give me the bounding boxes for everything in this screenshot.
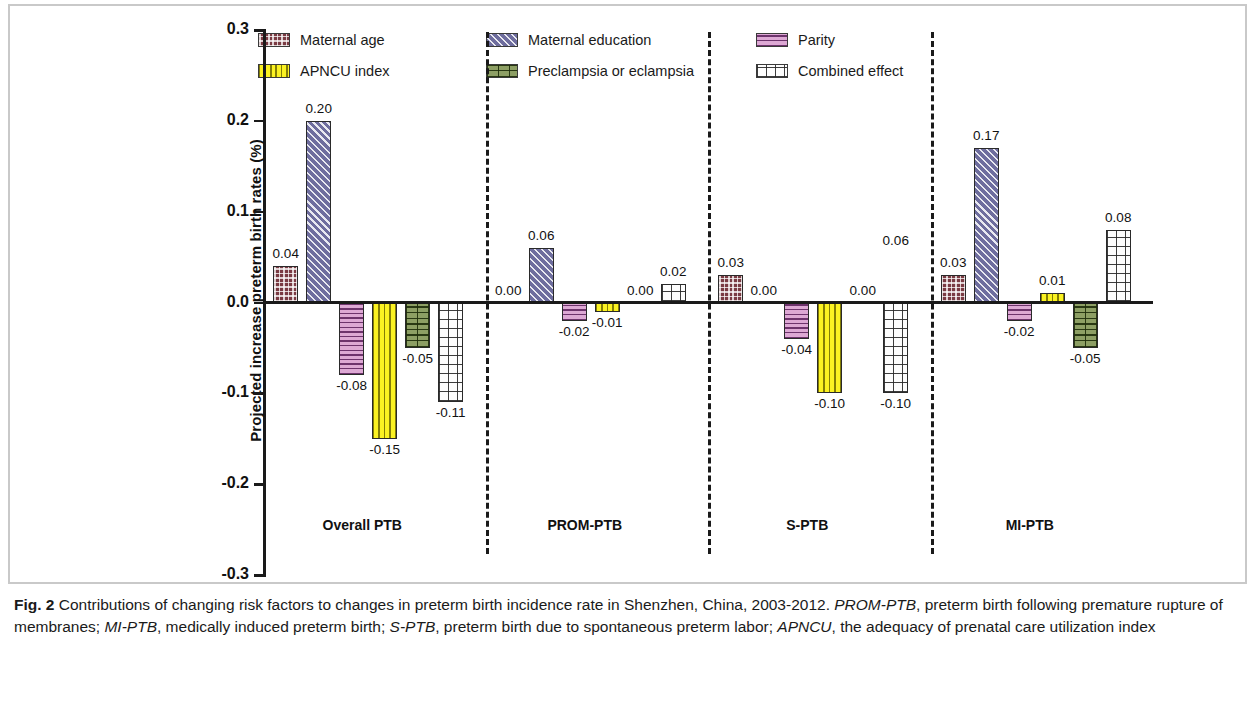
caption-segment: PROM-PTB	[834, 596, 916, 613]
y-tick	[254, 574, 266, 577]
bar	[372, 303, 397, 439]
bar-value-label: 0.20	[306, 101, 332, 116]
caption-segment: , preterm birth due to spontaneous prete…	[435, 618, 777, 635]
bar-value-label: -0.02	[1004, 324, 1035, 339]
bar	[974, 148, 999, 302]
bar-value-label: 0.03	[718, 255, 744, 270]
bar	[817, 303, 842, 394]
caption-segment: , medically induced preterm birth;	[157, 618, 390, 635]
y-axis-title: Projected increase preterm birth rates (…	[247, 81, 264, 501]
group-label-prom-ptb: PROM-PTB	[547, 517, 622, 533]
y-tick	[254, 29, 266, 32]
bar-value-label: 0.17	[973, 128, 999, 143]
bar	[883, 303, 908, 394]
bar-value-label: 0.00	[850, 283, 876, 298]
bar-value-label: -0.01	[592, 315, 623, 330]
bar-value-label: -0.10	[880, 396, 911, 411]
bar-value-label: -0.08	[336, 378, 367, 393]
bar-value-label: 0.00	[627, 283, 653, 298]
bar-value-label: -0.05	[1070, 351, 1101, 366]
bar	[405, 303, 430, 348]
y-tick-label: 0.2	[227, 111, 249, 129]
bar-value-label: 0.03	[940, 255, 966, 270]
y-tick	[254, 392, 266, 395]
bar	[529, 248, 554, 303]
bar	[941, 275, 966, 302]
y-tick-label: -0.3	[221, 565, 249, 583]
figure-page: Maternal ageAPNCU indexMaternal educatio…	[0, 0, 1255, 702]
group-divider	[486, 32, 489, 554]
group-label-s-ptb: S-PTB	[786, 517, 828, 533]
bar-value-label: 0.08	[1105, 210, 1131, 225]
bar	[1106, 230, 1131, 303]
y-tick-label: -0.1	[221, 383, 249, 401]
caption-segment: APNCU	[777, 618, 831, 635]
bar	[339, 303, 364, 376]
bar	[562, 303, 587, 321]
figure-panel: Maternal ageAPNCU indexMaternal educatio…	[8, 4, 1247, 584]
bar-value-label: -0.11	[436, 405, 466, 420]
y-tick	[254, 483, 266, 486]
bar	[273, 266, 298, 302]
bar-value-label: -0.05	[402, 351, 433, 366]
bar	[718, 275, 743, 302]
y-tick-label: 0.0	[227, 293, 249, 311]
bar-value-label: 0.00	[495, 283, 521, 298]
y-tick-label: 0.3	[227, 20, 249, 38]
group-divider	[708, 32, 711, 554]
group-divider	[931, 32, 934, 554]
group-label-mi-ptb: MI-PTB	[1006, 517, 1054, 533]
caption-segment: Fig. 2	[14, 596, 59, 613]
bar	[1073, 303, 1098, 348]
y-tick-label: 0.1	[227, 202, 249, 220]
bar-value-label: 0.02	[660, 264, 686, 279]
y-tick-label: -0.2	[221, 474, 249, 492]
bar-value-label: -0.02	[559, 324, 590, 339]
bar	[438, 303, 463, 403]
figure-caption: Fig. 2 Contributions of changing risk fa…	[14, 594, 1239, 638]
bar-value-label: 0.04	[273, 246, 299, 261]
bar	[784, 303, 809, 339]
group-label-overall-ptb: Overall PTB	[323, 517, 402, 533]
bar	[1007, 303, 1032, 321]
chart-annotation: 0.06	[883, 233, 909, 248]
caption-segment: , the adequacy of prenatal care utilizat…	[832, 618, 1156, 635]
zero-baseline	[263, 301, 1153, 304]
bar	[306, 121, 331, 303]
plot-area: Projected increase preterm birth rates (…	[263, 30, 1153, 575]
bar	[661, 284, 686, 302]
y-tick	[254, 120, 266, 123]
bar-value-label: -0.15	[369, 442, 400, 457]
y-tick	[254, 211, 266, 214]
bar-value-label: 0.01	[1039, 273, 1065, 288]
caption-segment: Contributions of changing risk factors t…	[59, 596, 834, 613]
bar-value-label: 0.00	[751, 283, 777, 298]
caption-segment: S-PTB	[390, 618, 436, 635]
bar-value-label: -0.04	[781, 342, 812, 357]
caption-segment: MI-PTB	[104, 618, 157, 635]
bar-value-label: -0.10	[814, 396, 845, 411]
bar-value-label: 0.06	[528, 228, 554, 243]
